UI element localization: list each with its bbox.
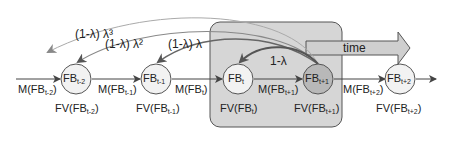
fv-label-t-2: FV(FBt-2) <box>55 103 99 115</box>
diagram-canvas <box>0 0 451 141</box>
fv-label-t-1: FV(FBt-1) <box>136 103 180 115</box>
arc-label-1-lambda: 1-λ <box>270 55 287 67</box>
node-label-fb-t+2: FBt+2 <box>387 73 411 85</box>
fv-label-t+2: FV(FBt+2) <box>376 103 421 115</box>
edge-label-m-t: M(FBt) <box>175 84 208 96</box>
node-label-fb-t-1: FBt-1 <box>143 73 165 85</box>
arc-label-lambda1: (1-λ) λ <box>168 38 202 50</box>
edge-label-m-t-2: M(FBt-2) <box>18 84 57 96</box>
fv-label-t: FV(FBt) <box>220 103 257 115</box>
arc-label-lambda2: (1-λ) λ² <box>105 38 143 50</box>
edge-label-m-t+2: M(FBt+2) <box>343 84 384 96</box>
node-label-fb-t: FBt <box>228 73 244 85</box>
edge-label-m-t+1: M(FBt+1) <box>258 84 299 96</box>
edge-label-m-t-1: M(FBt-1) <box>98 84 137 96</box>
node-label-fb-t-2: FBt-2 <box>63 73 85 85</box>
node-label-fb-t+1: FBt+1 <box>305 73 329 85</box>
time-label: time <box>343 41 366 55</box>
fv-label-t+1: FV(FBt+1) <box>294 103 339 115</box>
